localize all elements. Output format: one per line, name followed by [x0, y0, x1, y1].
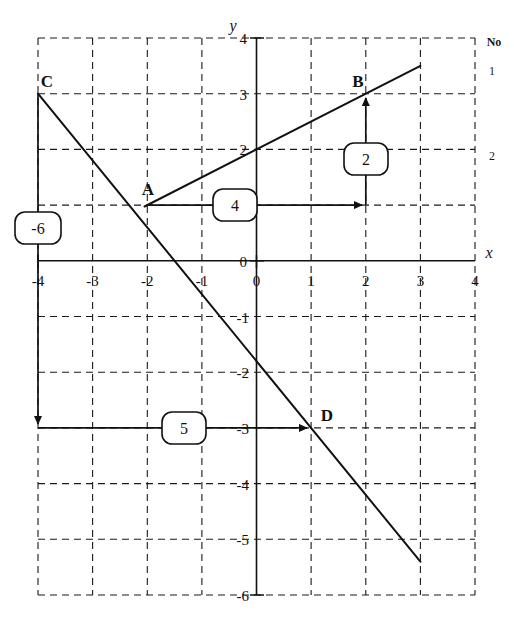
y-tick-label-4: 4 [240, 31, 248, 47]
y-tick-label--6: -6 [237, 588, 250, 604]
figure-root: -4 -3 -2 -1 0 1 2 3 4 4 3 2 0 -1 -2 -3 -… [0, 0, 514, 630]
callout-label-minus6: -6 [31, 220, 44, 237]
x-tick-label-0: 0 [253, 273, 261, 289]
callout-rise-a-to-b: 2 [344, 143, 388, 175]
x-axis-tick-labels: -4 -3 -2 -1 0 1 2 3 4 [32, 273, 480, 289]
y-tick-label--5: -5 [237, 532, 250, 548]
y-tick-label--3: -3 [237, 421, 250, 437]
line-segment-AB [145, 66, 421, 207]
x-tick-label-1: 1 [307, 273, 315, 289]
x-tick-label--3: -3 [86, 273, 99, 289]
x-axis-label: x [484, 244, 492, 261]
y-tick-label--1: -1 [237, 310, 250, 326]
y-tick-label-0: 0 [240, 254, 248, 270]
margin-heading: No [487, 35, 502, 49]
y-axis-label: y [227, 17, 237, 35]
callout-label-5: 5 [180, 420, 188, 437]
y-tick-label-3: 3 [240, 87, 248, 103]
y-tick-label--4: -4 [237, 477, 250, 493]
x-tick-label--1: -1 [196, 273, 209, 289]
point-label-A: A [142, 180, 155, 199]
point-label-D: D [321, 406, 333, 425]
coordinate-graph: -4 -3 -2 -1 0 1 2 3 4 4 3 2 0 -1 -2 -3 -… [0, 0, 514, 630]
x-tick-label--4: -4 [32, 273, 45, 289]
point-label-B: B [352, 72, 363, 91]
margin-item-1: 1 [489, 64, 495, 78]
x-tick-label-2: 2 [362, 273, 370, 289]
right-margin-notes: No 1 2 [487, 35, 502, 163]
y-axis-tick-labels: 4 3 2 0 -1 -2 -3 -4 -5 -6 [237, 31, 250, 604]
y-tick-label--2: -2 [237, 365, 250, 381]
y-tick-label-2: 2 [240, 142, 248, 158]
margin-item-2: 2 [489, 149, 495, 163]
point-label-C: C [41, 72, 53, 91]
x-tick-label-4: 4 [471, 273, 479, 289]
callout-run-a-to-b: 4 [213, 189, 257, 221]
callout-label-4: 4 [231, 197, 239, 214]
x-tick-label-3: 3 [417, 273, 425, 289]
x-tick-label--2: -2 [141, 273, 154, 289]
plotted-lines [38, 66, 420, 562]
callout-run-c-to-d: 5 [162, 412, 206, 444]
callout-label-2: 2 [362, 151, 370, 168]
callout-fall-c-to-d: -6 [15, 212, 61, 244]
